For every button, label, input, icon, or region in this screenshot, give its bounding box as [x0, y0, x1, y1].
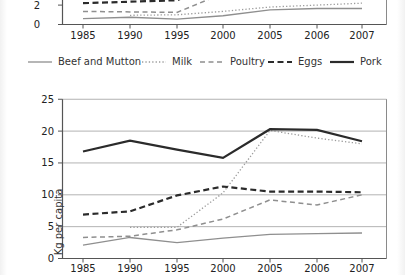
- y-tick-label: 2: [34, 0, 40, 11]
- page-background: 198519901995200020052006200702 Beef and …: [0, 0, 405, 275]
- x-tick-label: 2005: [257, 263, 282, 274]
- x-tick-label: 2000: [210, 263, 235, 274]
- x-tick-label: 1985: [70, 30, 95, 41]
- series-line-beef: [83, 233, 362, 245]
- legend-line-sample-eggs: [268, 57, 292, 67]
- series-line-eggs: [83, 187, 362, 215]
- legend-line-sample-pork: [330, 57, 354, 67]
- x-tick-label: 1990: [117, 30, 142, 41]
- legend-item-pork: Pork: [330, 54, 382, 70]
- legend-label-poultry: Poultry: [230, 54, 265, 70]
- legend-label-pork: Pork: [360, 54, 382, 70]
- legend-line-sample-poultry: [200, 57, 224, 67]
- legend-item-beef: Beef and Mutton: [28, 54, 141, 70]
- legend-item-poultry: Poultry: [200, 54, 265, 70]
- chart-legend: Beef and MuttonMilkPoultryEggsPork: [0, 54, 405, 72]
- y-tick-label: 25: [41, 94, 54, 105]
- y-tick-label: 0: [34, 19, 40, 30]
- legend-item-milk: Milk: [142, 54, 192, 70]
- y-tick-label: 15: [41, 157, 54, 168]
- top-chart-canvas: 198519901995200020052006200702: [0, 0, 405, 45]
- x-tick-label: 1990: [117, 263, 142, 274]
- bottom-line-chart: Kg per capita 19851990199520002005200620…: [0, 85, 405, 275]
- x-tick-label: 1995: [164, 30, 189, 41]
- y-tick-label: 20: [41, 126, 54, 137]
- legend-label-eggs: Eggs: [298, 54, 322, 70]
- x-tick-label: 2006: [304, 30, 329, 41]
- series-line-poultry: [83, 195, 362, 238]
- x-tick-label: 2000: [210, 30, 235, 41]
- x-tick-label: 2005: [257, 30, 282, 41]
- x-tick-label: 1985: [70, 263, 95, 274]
- x-tick-label: 2007: [349, 30, 374, 41]
- top-line-chart-cropped: 198519901995200020052006200702: [0, 0, 405, 45]
- series-line-pork: [83, 129, 362, 158]
- x-tick-label: 1995: [164, 263, 189, 274]
- legend-line-sample-milk: [142, 57, 166, 67]
- legend-item-eggs: Eggs: [268, 54, 322, 70]
- series-line-beef: [83, 9, 362, 20]
- x-tick-label: 2006: [304, 263, 329, 274]
- x-tick-label: 2007: [349, 263, 374, 274]
- legend-line-sample-beef: [28, 57, 52, 67]
- legend-label-milk: Milk: [172, 54, 192, 70]
- legend-label-beef: Beef and Mutton: [58, 54, 141, 70]
- y-axis-label: Kg per capita: [53, 172, 67, 272]
